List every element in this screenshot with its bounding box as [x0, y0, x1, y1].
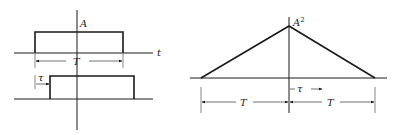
width-label: T — [73, 56, 81, 67]
left-T-label: T — [240, 97, 248, 108]
bottom-rect-pulse — [50, 76, 134, 99]
bottom-shifted-pulse-plot: τ — [14, 72, 153, 99]
correlation-diagram: A t T τ A2 τ — [0, 0, 401, 135]
amplitude-label: A — [79, 18, 87, 29]
top-rect-pulse — [35, 32, 123, 53]
top-pulse-plot: A t T — [14, 18, 162, 68]
right-panel-autocorrelation: A2 τ T T — [190, 16, 387, 113]
tau-label: τ — [297, 83, 303, 94]
peak-label: A2 — [292, 16, 305, 28]
shift-label: τ — [38, 72, 44, 83]
time-axis-label: t — [157, 47, 162, 58]
triangle-autocorrelation — [201, 26, 375, 78]
left-panel: A t T τ — [14, 10, 162, 130]
right-T-label: T — [327, 97, 335, 108]
